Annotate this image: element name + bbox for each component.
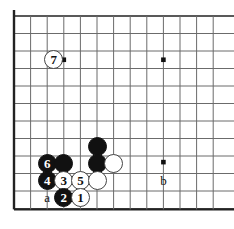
label-a: a <box>39 190 55 206</box>
star-point-top-right <box>161 57 166 62</box>
star-point-bottom-right <box>161 160 166 165</box>
go-board-grid <box>0 0 234 229</box>
label-b: b <box>155 173 171 189</box>
stone-white-lower[interactable] <box>88 171 107 190</box>
stone-1-white[interactable]: 1 <box>71 188 90 207</box>
stone-black-left-upper[interactable] <box>54 154 73 173</box>
stone-white-right[interactable] <box>104 154 123 173</box>
go-board-diagram: 7643521 ab <box>0 0 234 229</box>
